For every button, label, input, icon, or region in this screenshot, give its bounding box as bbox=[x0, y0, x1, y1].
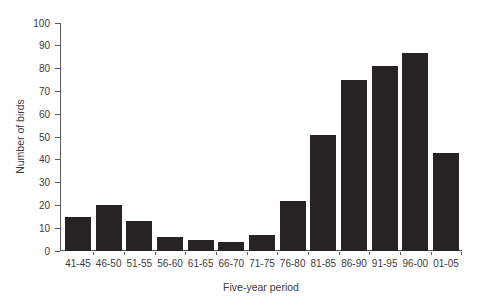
bar-76-80 bbox=[280, 201, 306, 251]
y-tick-label: 70 bbox=[6, 85, 50, 98]
y-tick-label: 80 bbox=[6, 62, 50, 75]
y-axis-tick bbox=[55, 114, 60, 115]
bar-chart-figure: Number of birds 0102030405060708090100 4… bbox=[0, 0, 488, 306]
bar-46-50 bbox=[96, 205, 122, 251]
x-tick-label: 41-45 bbox=[65, 257, 91, 270]
x-axis-tick bbox=[155, 252, 156, 255]
bar-91-95 bbox=[372, 66, 398, 251]
x-tick-label: 96-00 bbox=[403, 257, 429, 270]
y-tick-label: 10 bbox=[6, 222, 50, 235]
y-tick-label: 0 bbox=[6, 245, 50, 258]
x-tick-label: 76-80 bbox=[280, 257, 306, 270]
bar-86-90 bbox=[341, 80, 367, 251]
x-axis-tick bbox=[93, 252, 94, 255]
bar-66-70 bbox=[218, 242, 244, 251]
x-tick-label: 91-95 bbox=[372, 257, 398, 270]
y-axis-tick bbox=[55, 68, 60, 69]
x-tick-label: 86-90 bbox=[341, 257, 367, 270]
x-tick-label: 56-60 bbox=[157, 257, 183, 270]
x-axis-tick bbox=[216, 252, 217, 255]
x-axis-tick bbox=[124, 252, 125, 255]
y-axis-tick bbox=[55, 228, 60, 229]
x-axis-tick bbox=[369, 252, 370, 255]
y-axis-tick bbox=[55, 182, 60, 183]
x-tick-label: 61-65 bbox=[188, 257, 214, 270]
x-axis-tick bbox=[308, 252, 309, 255]
x-axis-tick bbox=[339, 252, 340, 255]
y-tick-label: 100 bbox=[6, 17, 50, 30]
x-axis-tick bbox=[247, 252, 248, 255]
y-tick-label: 30 bbox=[6, 176, 50, 189]
x-tick-label: 66-70 bbox=[219, 257, 245, 270]
y-axis-tick bbox=[55, 251, 60, 252]
x-tick-label: 71-75 bbox=[249, 257, 275, 270]
bar-51-55 bbox=[126, 221, 152, 251]
x-tick-label: 01-05 bbox=[433, 257, 459, 270]
x-axis-tick bbox=[400, 252, 401, 255]
y-axis-tick bbox=[55, 205, 60, 206]
bar-81-85 bbox=[310, 135, 336, 251]
y-tick-label: 90 bbox=[6, 39, 50, 52]
x-tick-label: 51-55 bbox=[127, 257, 153, 270]
x-axis-title: Five-year period bbox=[60, 281, 462, 293]
bar-41-45 bbox=[65, 217, 91, 251]
y-tick-label: 50 bbox=[6, 131, 50, 144]
bar-96-00 bbox=[402, 53, 428, 251]
x-tick-label: 81-85 bbox=[311, 257, 337, 270]
bar-61-65 bbox=[188, 240, 214, 251]
x-axis-tick bbox=[461, 252, 462, 255]
y-tick-label: 60 bbox=[6, 108, 50, 121]
y-axis-tick bbox=[55, 45, 60, 46]
x-axis-tick bbox=[431, 252, 432, 255]
y-tick-label: 40 bbox=[6, 153, 50, 166]
x-tick-label: 46-50 bbox=[96, 257, 122, 270]
bar-56-60 bbox=[157, 237, 183, 251]
x-axis-tick bbox=[185, 252, 186, 255]
bar-01-05 bbox=[433, 153, 459, 251]
bar-71-75 bbox=[249, 235, 275, 251]
y-axis-tick bbox=[55, 159, 60, 160]
y-axis-tick bbox=[55, 23, 60, 24]
y-axis-tick bbox=[55, 91, 60, 92]
x-axis-tick bbox=[277, 252, 278, 255]
y-tick-label: 20 bbox=[6, 199, 50, 212]
y-axis-tick bbox=[55, 137, 60, 138]
